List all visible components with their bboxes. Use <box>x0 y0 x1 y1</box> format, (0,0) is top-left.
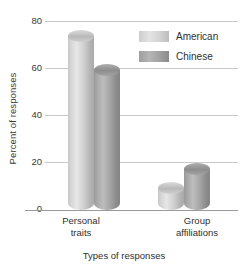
y-tick-label-60: 60 <box>18 63 42 73</box>
bar-american-group-affiliations <box>158 182 184 210</box>
x-category-line2: affiliations <box>142 227 248 239</box>
legend-label-american: American <box>176 31 218 42</box>
y-tick-label-40: 40 <box>18 110 42 120</box>
x-category-line1: Group <box>142 215 248 227</box>
y-axis-title: Percent of responses <box>7 49 18 189</box>
y-tick-label-20: 20 <box>18 157 42 167</box>
x-category-line1: Personal <box>26 215 136 227</box>
y-tick-label-80: 80 <box>18 16 42 26</box>
american-swatch-icon <box>139 31 169 42</box>
bar-body <box>184 169 210 210</box>
chinese-swatch-icon <box>139 51 169 62</box>
bar-body <box>94 70 120 210</box>
x-category-personal-traits: Personal traits <box>26 215 136 238</box>
legend-item-chinese: Chinese <box>139 48 243 65</box>
legend-label-chinese: Chinese <box>176 51 213 62</box>
bar-body <box>68 36 94 210</box>
gridline-80 <box>45 21 238 22</box>
bar-chart: Percent of responses 80 60 40 20 0 <box>0 0 248 277</box>
y-tick-label-0: 0 <box>18 204 42 214</box>
bar-cap <box>94 64 120 76</box>
x-axis-title: Types of responses <box>0 250 248 261</box>
x-axis-line <box>25 210 238 211</box>
legend-item-american: American <box>139 28 243 45</box>
bar-cap <box>158 182 184 194</box>
legend: American Chinese <box>139 28 243 68</box>
bar-chinese-personal-traits <box>94 64 120 210</box>
x-category-group-affiliations: Group affiliations <box>142 215 248 238</box>
bar-cap <box>184 163 210 175</box>
bar-chinese-group-affiliations <box>184 163 210 210</box>
bar-american-personal-traits <box>68 30 94 210</box>
x-category-line2: traits <box>26 227 136 239</box>
